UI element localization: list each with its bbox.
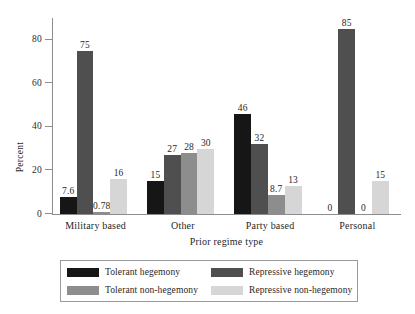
x-axis-category-label: Military based: [52, 220, 139, 231]
legend-label: Tolerant hegemony: [105, 267, 180, 277]
y-axis-tick-label: 20: [32, 165, 42, 175]
bar-slot: 28: [181, 18, 198, 214]
legend-item[interactable]: Tolerant hegemony: [65, 267, 209, 277]
legend-label: Tolerant non-hegemony: [105, 285, 198, 295]
bar[interactable]: 8.7: [268, 195, 285, 214]
bar[interactable]: 46: [234, 114, 251, 214]
bar[interactable]: 85: [338, 29, 355, 214]
bar[interactable]: 16: [110, 179, 127, 214]
y-axis-tick-label: 80: [32, 34, 42, 44]
legend-item[interactable]: Repressive hegemony: [209, 267, 353, 277]
bar[interactable]: 28: [181, 153, 198, 214]
bar-value-label: 27: [167, 144, 177, 154]
x-axis-line: [52, 214, 401, 215]
bar-group-bars: 085015: [314, 18, 401, 214]
bar-slot: 75: [77, 18, 94, 214]
bar-chart-figure: Percent 020406080 7.6750.7816Military ba…: [0, 0, 415, 314]
bar-slot: 15: [147, 18, 164, 214]
legend-label: Repressive hegemony: [249, 267, 335, 277]
plot-area: 020406080 7.6750.7816Military based15272…: [52, 18, 401, 214]
bar[interactable]: 30: [197, 149, 214, 214]
bar-value-label: 32: [255, 133, 265, 143]
y-axis-tick: 40: [45, 126, 52, 127]
bar-slot: 15: [372, 18, 389, 214]
bar-value-label: 8.7: [270, 184, 282, 194]
bar[interactable]: 15: [147, 181, 164, 214]
bar-value-label: 16: [114, 168, 124, 178]
bar[interactable]: 75: [77, 51, 94, 214]
bar-slot: 32: [251, 18, 268, 214]
bar-slot: 0.78: [93, 18, 110, 214]
legend-item[interactable]: Repressive non-hegemony: [209, 285, 353, 295]
bar[interactable]: 32: [251, 144, 268, 214]
bar-value-label: 28: [184, 142, 194, 152]
bar-slot: 16: [110, 18, 127, 214]
bar-slot: 0: [322, 18, 339, 214]
bar-group: 46328.713Party based: [227, 18, 314, 214]
y-axis-tick: 0: [45, 213, 52, 214]
legend-swatch: [211, 286, 243, 295]
bar-slot: 27: [164, 18, 181, 214]
bar[interactable]: 15: [372, 181, 389, 214]
bar-value-label: 0: [361, 203, 366, 213]
bar-group: 7.6750.7816Military based: [52, 18, 139, 214]
bar-slot: 13: [285, 18, 302, 214]
bar[interactable]: 0.78: [93, 212, 110, 214]
bar-value-label: 75: [80, 40, 90, 50]
bar-value-label: 15: [151, 170, 161, 180]
x-axis-category-label: Personal: [314, 220, 401, 231]
y-axis-title: Percent: [15, 142, 25, 173]
chart-legend: Tolerant hegemonyRepressive hegemonyTole…: [60, 260, 358, 302]
bar-slot: 7.6: [60, 18, 77, 214]
bar-value-label: 13: [288, 175, 298, 185]
legend-swatch: [67, 286, 99, 295]
legend-swatch: [211, 268, 243, 277]
bar-group: 085015Personal: [314, 18, 401, 214]
bar-group: 15272830Other: [139, 18, 226, 214]
bar-value-label: 85: [342, 18, 352, 28]
legend-swatch: [67, 268, 99, 277]
x-axis-title: Prior regime type: [52, 236, 401, 247]
x-axis-category-label: Other: [139, 220, 226, 231]
y-axis-tick: 80: [45, 39, 52, 40]
bar-value-label: 7.6: [62, 186, 74, 196]
bar[interactable]: 7.6: [60, 197, 77, 214]
bar-slot: 30: [197, 18, 214, 214]
bar-group-bars: 7.6750.7816: [52, 18, 139, 214]
bar-value-label: 15: [375, 170, 385, 180]
y-axis-tick-label: 0: [37, 209, 42, 219]
bar-group-bars: 46328.713: [227, 18, 314, 214]
legend-item[interactable]: Tolerant non-hegemony: [65, 285, 209, 295]
bar-slot: 46: [234, 18, 251, 214]
bar-value-label: 0.78: [93, 201, 110, 211]
bar-value-label: 46: [238, 103, 248, 113]
bar-group-bars: 15272830: [139, 18, 226, 214]
y-axis-tick: 60: [45, 82, 52, 83]
bar[interactable]: 13: [285, 186, 302, 214]
x-axis-category-label: Party based: [227, 220, 314, 231]
y-axis-tick-label: 60: [32, 78, 42, 88]
y-axis-tick-label: 40: [32, 121, 42, 131]
bar-slot: 85: [338, 18, 355, 214]
bar[interactable]: 27: [164, 155, 181, 214]
bar-value-label: 0: [328, 203, 333, 213]
bar-value-label: 30: [201, 138, 211, 148]
y-axis-tick: 20: [45, 169, 52, 170]
bar-slot: 0: [355, 18, 372, 214]
bar-slot: 8.7: [268, 18, 285, 214]
legend-label: Repressive non-hegemony: [249, 285, 352, 295]
